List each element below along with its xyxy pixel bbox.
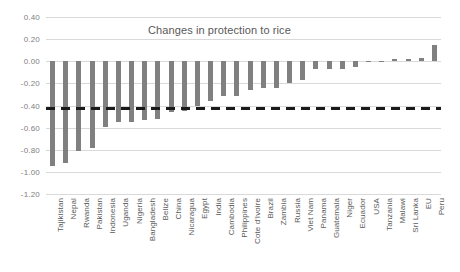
- bar: [90, 61, 95, 147]
- bar: [432, 45, 437, 62]
- bar: [287, 61, 292, 83]
- y-axis-tick-label: -1.00: [21, 167, 40, 176]
- bar: [155, 61, 160, 119]
- x-axis-category-label: Rwanda: [82, 198, 91, 228]
- x-axis-category-label: Zambia: [279, 198, 288, 225]
- x-axis-category-label: Tanzania: [385, 198, 394, 231]
- x-axis-category-label: Russia: [293, 198, 302, 223]
- y-axis-tick-label: 0.20: [24, 35, 40, 44]
- bar: [234, 61, 239, 95]
- bar-series: [46, 17, 441, 194]
- y-axis: 0.400.200.00-0.20-0.40-0.60-0.80-1.00-1.…: [0, 0, 44, 272]
- bar: [300, 61, 305, 80]
- x-axis-category-label: EU: [424, 198, 433, 209]
- x-axis-category-label: Indonesia: [108, 198, 117, 234]
- chart-title: Changes in protection to rice: [148, 24, 291, 36]
- bar: [419, 58, 424, 61]
- x-axis-category-label: Pakistan: [95, 198, 104, 229]
- bar: [353, 61, 358, 67]
- x-axis-category-label: Malawi: [398, 198, 407, 224]
- x-axis-category-label: Tajikistan: [56, 198, 65, 232]
- x-axis-category-label: Philippines: [240, 198, 249, 238]
- x-axis-category-label: Uganda: [121, 198, 130, 227]
- x-axis-category-label: Nigeria: [135, 198, 144, 224]
- bar: [182, 61, 187, 111]
- x-axis-category-label: Belize: [161, 198, 170, 220]
- x-axis-category-label: Panama: [319, 198, 328, 228]
- bar: [103, 61, 108, 126]
- bar: [63, 61, 68, 163]
- y-axis-tick-label: -0.40: [21, 101, 40, 110]
- x-axis-category-label: Egypt: [200, 198, 209, 219]
- plot-area: [46, 17, 441, 194]
- y-axis-tick-label: 0.40: [24, 13, 40, 22]
- bar: [340, 61, 345, 69]
- y-axis-tick-label: -0.60: [21, 123, 40, 132]
- bar: [116, 61, 121, 122]
- bar: [274, 61, 279, 88]
- bar: [392, 59, 397, 61]
- x-axis-category-label: Bangladesh: [148, 198, 157, 241]
- bar: [406, 59, 411, 61]
- chart-container: 0.400.200.00-0.20-0.40-0.60-0.80-1.00-1.…: [0, 0, 460, 272]
- x-axis-category-label: Niger: [345, 198, 354, 218]
- bar: [50, 61, 55, 166]
- x-axis-category-label: Nepal: [69, 198, 78, 219]
- bar: [379, 61, 384, 62]
- bar: [195, 61, 200, 105]
- bar: [327, 61, 332, 69]
- bar: [129, 61, 134, 122]
- bar: [313, 61, 318, 69]
- x-axis-category-labels: TajikistanNepalRwandaPakistanIndonesiaUg…: [46, 196, 441, 272]
- y-axis-tick-label: 0.00: [24, 57, 40, 66]
- x-axis-category-label: Guatemala: [332, 198, 341, 238]
- y-axis-tick-label: -1.20: [21, 190, 40, 199]
- bar: [366, 61, 371, 62]
- x-axis-category-label: Cote d'Ivoire: [253, 198, 262, 244]
- x-axis-category-label: Peru: [437, 198, 446, 215]
- bar: [208, 61, 213, 101]
- x-axis-category-label: China: [174, 198, 183, 219]
- x-axis-category-label: India: [214, 198, 223, 216]
- bar: [221, 61, 226, 95]
- reference-line: [46, 107, 441, 110]
- x-axis-category-label: Cambodia: [227, 198, 236, 235]
- bar: [169, 61, 174, 112]
- bar: [248, 61, 253, 90]
- y-axis-tick-label: -0.80: [21, 145, 40, 154]
- gridline: [46, 194, 441, 195]
- y-axis-tick-label: -0.20: [21, 79, 40, 88]
- bar: [142, 61, 147, 120]
- x-axis-category-label: Brazil: [266, 198, 275, 219]
- bar: [261, 61, 266, 88]
- x-axis-category-label: Ecuador: [358, 198, 367, 229]
- x-axis-category-label: Viet Nam: [306, 198, 315, 232]
- x-axis-category-label: USA: [372, 198, 381, 215]
- x-axis-category-label: Sri Lanka: [411, 198, 420, 233]
- x-axis-category-label: Nicaragua: [187, 198, 196, 235]
